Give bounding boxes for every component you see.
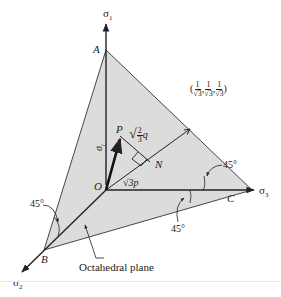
sigma3-label: σ3 (259, 185, 268, 199)
divider (0, 281, 281, 282)
angle-label-right-lower: 45° (171, 224, 185, 234)
point-n-label: N (155, 159, 162, 170)
deviatoric-length-label: √23q (129, 127, 148, 144)
point-b-label: B (41, 254, 48, 265)
sigma1-label: σ1 (103, 8, 112, 22)
stress-vector-label: σi (94, 144, 106, 151)
point-p-label: P (116, 124, 123, 135)
angle-label-left: 45° (30, 199, 44, 209)
hydrostatic-direction-label: (1√3,1√3,1√3) (190, 81, 227, 98)
angle-label-right-upper: 45° (223, 160, 237, 170)
point-o-label: O (94, 181, 102, 192)
point-a-label: A (93, 44, 100, 55)
octahedral-plane-label: Octahedral plane (79, 262, 154, 273)
hydrostatic-length-label: √3p (123, 178, 139, 188)
point-c-label: C (227, 193, 234, 204)
sigma2-label: σ2 (13, 277, 22, 291)
